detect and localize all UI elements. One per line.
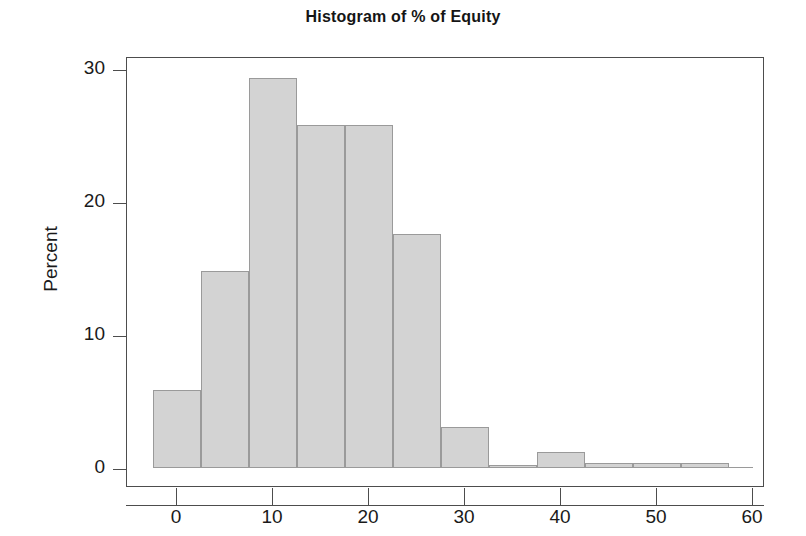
x-tick-mark — [464, 488, 465, 505]
histogram-bar — [249, 78, 297, 468]
x-tick-label: 60 — [722, 506, 782, 528]
histogram-bar — [345, 125, 393, 468]
y-tick-label: 10 — [53, 323, 105, 345]
x-tick-mark — [176, 488, 177, 505]
histogram-bar — [681, 463, 729, 468]
histogram-bar — [297, 125, 345, 468]
y-tick-mark — [113, 70, 126, 71]
histogram-bar — [585, 463, 633, 468]
x-tick-mark — [656, 488, 657, 505]
x-tick-mark — [752, 488, 753, 505]
y-tick-mark — [113, 336, 126, 337]
plot-area — [126, 57, 764, 487]
x-tick-label: 10 — [242, 506, 302, 528]
y-axis-line — [126, 70, 127, 469]
histogram-figure: Histogram of % of Equity 0102030 0102030… — [0, 0, 806, 536]
histogram-bar — [441, 427, 489, 468]
histogram-bar — [537, 452, 585, 468]
x-tick-label: 0 — [146, 506, 206, 528]
x-tick-label: 50 — [626, 506, 686, 528]
y-axis-title: Percent — [40, 199, 62, 319]
x-tick-mark — [368, 488, 369, 505]
x-tick-mark — [272, 488, 273, 505]
x-tick-label: 40 — [530, 506, 590, 528]
y-tick-mark — [113, 203, 126, 204]
y-tick-mark — [113, 469, 126, 470]
baseline-tail — [729, 467, 753, 468]
histogram-bars — [127, 58, 763, 486]
x-tick-mark — [560, 488, 561, 505]
histogram-bar — [201, 271, 249, 468]
y-tick-label: 0 — [53, 456, 105, 478]
histogram-bar — [489, 465, 537, 468]
histogram-bar — [153, 390, 201, 468]
y-tick-label: 30 — [53, 57, 105, 79]
histogram-bar — [393, 234, 441, 468]
x-tick-label: 30 — [434, 506, 494, 528]
histogram-bar — [633, 463, 681, 468]
chart-title: Histogram of % of Equity — [0, 8, 806, 26]
x-tick-label: 20 — [338, 506, 398, 528]
